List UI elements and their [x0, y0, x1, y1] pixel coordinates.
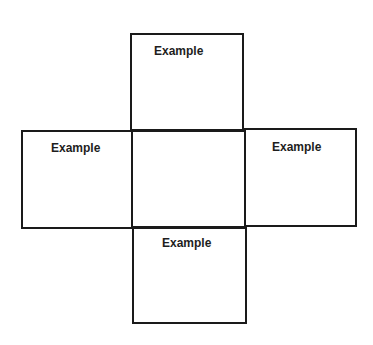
label-bottom: Example: [162, 236, 211, 250]
box-center: [131, 129, 246, 229]
label-right: Example: [272, 140, 321, 154]
label-top: Example: [154, 44, 203, 58]
label-left: Example: [51, 141, 100, 155]
